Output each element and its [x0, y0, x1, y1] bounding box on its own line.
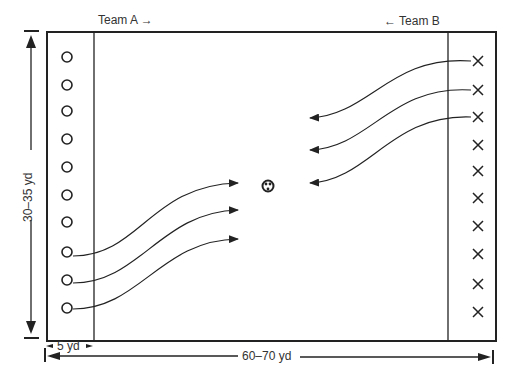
- team-b-players: [473, 56, 483, 317]
- field-boundary: [47, 32, 496, 341]
- team-a-players: [62, 52, 72, 313]
- team-a-run-arrows: [73, 183, 238, 309]
- width-dimension-label: 30–35 yd: [21, 173, 35, 222]
- ball-icon: [263, 181, 274, 192]
- team-a-label: Team A →: [98, 13, 153, 27]
- field-diagram: [0, 0, 512, 383]
- team-b-label: ← Team B: [384, 14, 440, 28]
- length-dimension-label: 60–70 yd: [242, 349, 291, 363]
- team-b-run-arrows: [310, 61, 471, 183]
- zone-dimension-label: 5 yd: [57, 339, 80, 353]
